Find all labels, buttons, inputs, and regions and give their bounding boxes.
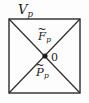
- tilde-accent-pressure: ~: [35, 60, 44, 71]
- label-volume-vp: Vp: [18, 3, 33, 16]
- label-volume-base: V: [18, 2, 27, 17]
- label-volume-subscript: p: [28, 9, 34, 19]
- tilde-accent-force: ~: [38, 24, 47, 35]
- label-origin-zero: 0: [51, 52, 58, 63]
- label-force-fp: ~Fp: [38, 31, 51, 43]
- square-diagram: [0, 0, 89, 103]
- label-pressure-subscript: p: [44, 71, 49, 80]
- label-force-subscript: p: [46, 35, 51, 44]
- center-node-dot: [42, 53, 47, 58]
- label-pressure-pp: ~Pp: [36, 67, 49, 79]
- figure-container: Vp ~Fp ~Pp 0: [0, 0, 89, 103]
